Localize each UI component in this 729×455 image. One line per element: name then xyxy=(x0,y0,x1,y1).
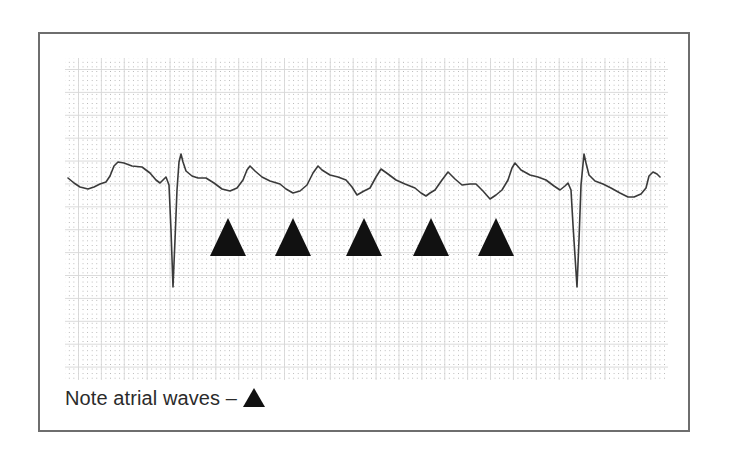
caption-text: Note atrial waves – xyxy=(65,387,237,410)
filled-triangle-icon xyxy=(243,388,265,407)
ecg-paper-grid xyxy=(65,58,668,380)
figure-caption: Note atrial waves – xyxy=(65,385,265,411)
